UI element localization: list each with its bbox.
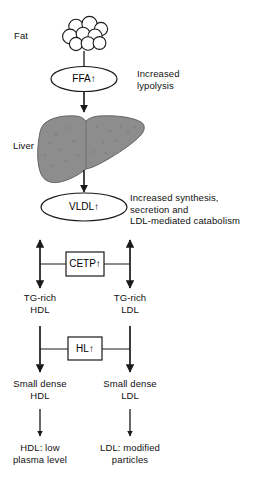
fat-label: Fat <box>14 30 28 42</box>
ffa-node-label: FFA↑ <box>54 73 114 84</box>
tg-rich-hdl-label: TG-rich HDL <box>0 292 80 315</box>
ldl-outcome-label: LDL: modified particles <box>90 442 170 465</box>
hdl-outcome-label: HDL: low plasma level <box>0 442 80 465</box>
small-dense-hdl-label: Small dense HDL <box>0 378 80 401</box>
diagram-vector-layer <box>0 0 259 479</box>
tg-rich-ldl-label: TG-rich LDL <box>90 292 170 315</box>
increased-lypolysis-label: Increased lypolysis <box>137 68 180 91</box>
small-dense-ldl-label: Small dense LDL <box>90 378 170 401</box>
liver-organ-icon <box>38 116 145 183</box>
hl-node-label: HL↑ <box>68 343 102 354</box>
cetp-node-label: CETP↑ <box>66 258 104 269</box>
increased-synthesis-label: Increased synthesis, secretion and LDL-m… <box>130 192 240 227</box>
fat-globule-cluster-icon <box>63 16 108 50</box>
liver-label: Liver <box>13 140 34 152</box>
vldl-node-label: VLDL↑ <box>44 201 124 212</box>
lipid-metabolism-diagram: Fat FFA↑ Increased lypolysis Liver VLDL↑… <box>0 0 259 479</box>
